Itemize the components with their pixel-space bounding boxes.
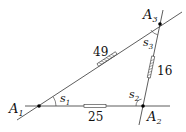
label-s1: s1 (60, 92, 70, 107)
angle-arc-s1 (53, 97, 56, 106)
label-s3: s3 (143, 36, 154, 51)
length-a1-a3: 49 (93, 45, 108, 59)
length-a1-a2: 25 (88, 110, 103, 124)
point-a3 (158, 22, 162, 26)
label-a1: A1 (8, 101, 23, 118)
label-a3: A3 (142, 7, 157, 24)
triangle-diagram: A1 A2 A3 s1 s2 s3 49 16 25 (0, 0, 186, 132)
label-s2: s2 (129, 88, 140, 103)
spring-a1-a2 (84, 105, 106, 108)
angle-arc-s3 (151, 30, 158, 35)
length-a2-a3: 16 (157, 64, 172, 78)
label-a2: A2 (146, 109, 161, 126)
point-a1 (37, 104, 41, 108)
point-a2 (141, 104, 145, 108)
spring-a2-a3 (147, 56, 154, 78)
